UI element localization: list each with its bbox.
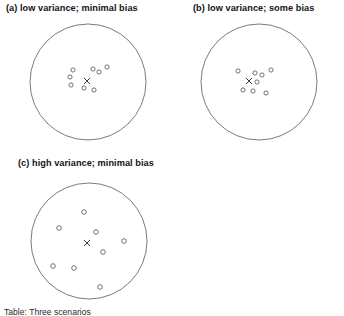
- estimate-point: [51, 264, 56, 269]
- panel-c-target-cross: [84, 240, 90, 246]
- estimate-point: [94, 230, 99, 235]
- figure-bottom-caption: Table: Three scenarios: [4, 307, 340, 316]
- estimate-point: [236, 69, 240, 73]
- estimate-point: [98, 285, 103, 290]
- estimate-point: [251, 89, 255, 93]
- estimate-point: [82, 210, 87, 215]
- estimate-point: [122, 239, 127, 244]
- panel-c: (c) high variance; minimal bias: [0, 155, 200, 310]
- estimate-point: [57, 226, 62, 231]
- estimate-point: [269, 68, 273, 72]
- estimate-point: [72, 266, 77, 271]
- panel-c-estimate-points: [51, 210, 127, 290]
- estimate-point: [101, 250, 106, 255]
- panel-b-target-cross: [246, 78, 252, 84]
- estimate-point: [253, 71, 257, 75]
- bias-variance-figure: (a) low variance; minimal bias: [0, 0, 344, 316]
- estimate-point: [264, 91, 268, 95]
- panel-b-estimate-points: [236, 68, 273, 95]
- estimate-point: [260, 73, 264, 77]
- estimate-point: [241, 88, 245, 92]
- estimate-point: [255, 80, 259, 84]
- panel-c-plot: [0, 0, 200, 310]
